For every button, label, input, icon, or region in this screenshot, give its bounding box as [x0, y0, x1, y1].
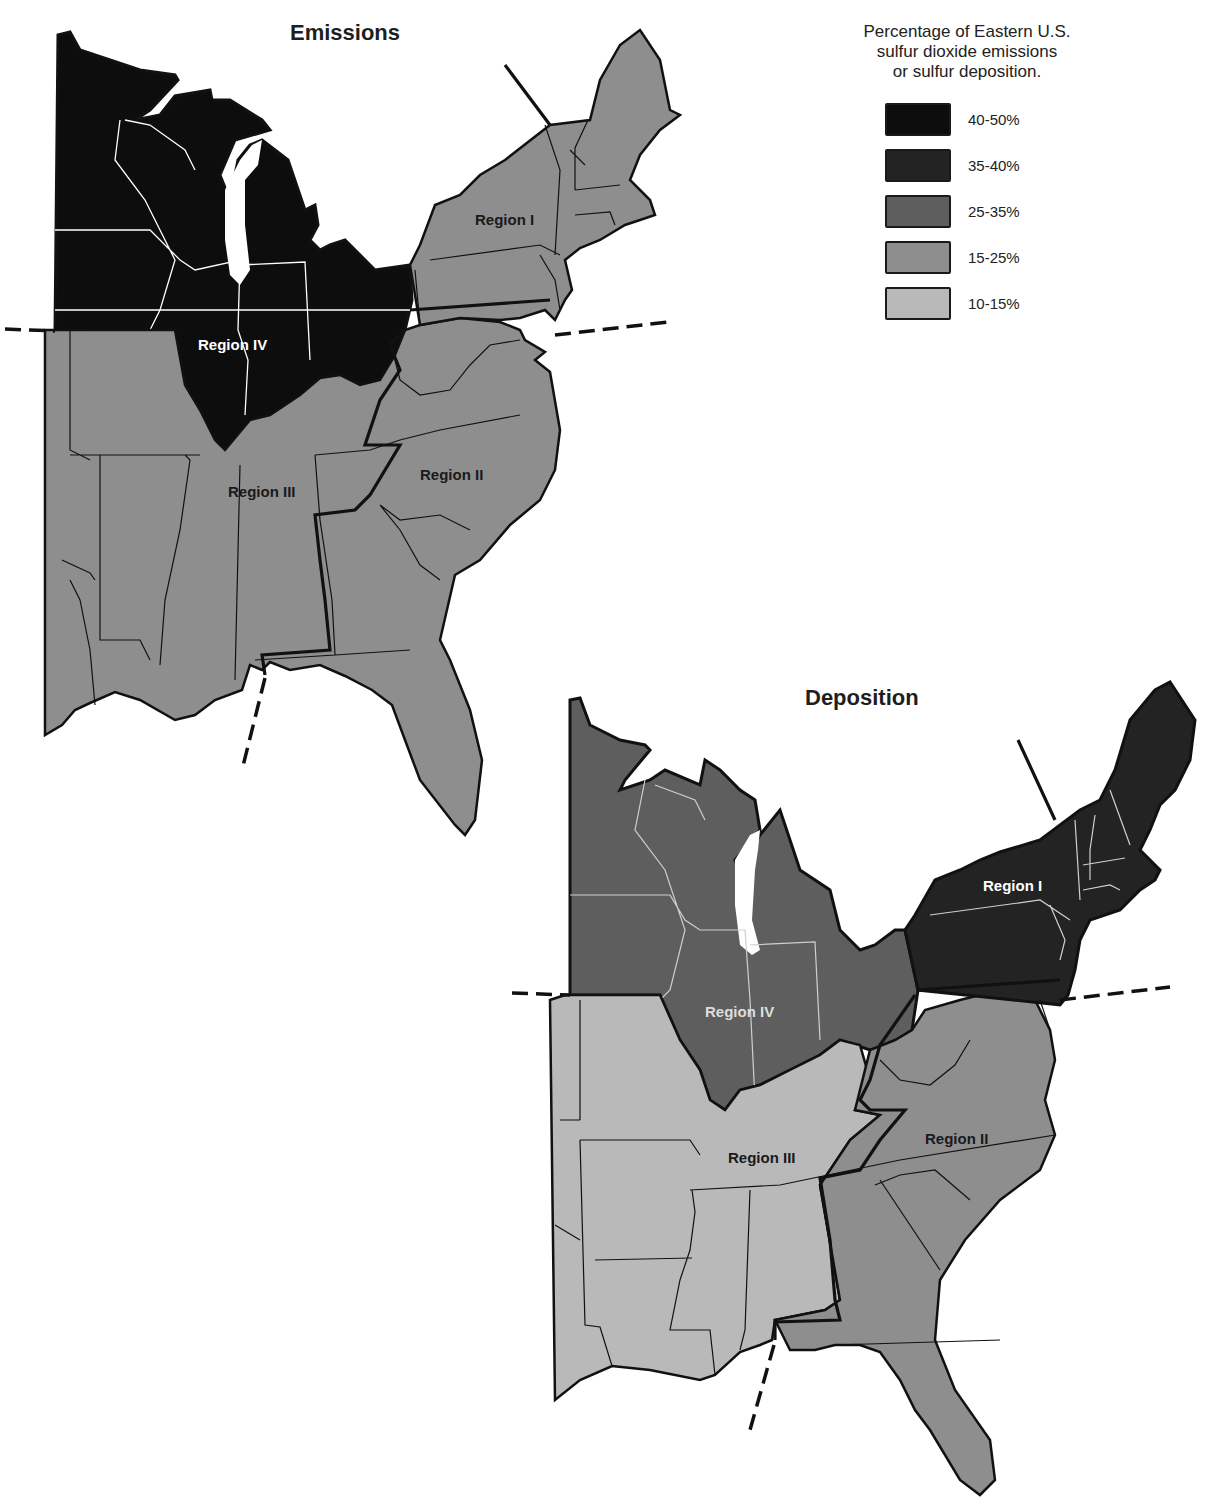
legend-item: 25-35%: [885, 188, 1112, 234]
legend-item: 35-40%: [885, 142, 1112, 188]
legend-swatch: [885, 149, 951, 182]
legend-title: Percentage of Eastern U.S. sulfur dioxid…: [822, 22, 1112, 82]
legend-swatch: [885, 195, 951, 228]
deposition-dashed-divider-gulf: [750, 1345, 774, 1430]
legend-title-line: Percentage of Eastern U.S.: [822, 22, 1112, 42]
legend-swatch: [885, 287, 951, 320]
legend-label: 25-35%: [968, 203, 1020, 220]
legend-item: 40-50%: [885, 96, 1112, 142]
legend-label: 10-15%: [968, 295, 1020, 312]
deposition-label-region-i: Region I: [983, 877, 1042, 894]
deposition-dashed-divider-west: [512, 993, 570, 995]
legend-items: 40-50% 35-40% 25-35% 15-25% 10-15%: [885, 96, 1112, 326]
deposition-label-region-ii: Region II: [925, 1130, 988, 1147]
legend-label: 15-25%: [968, 249, 1020, 266]
legend-swatch: [885, 103, 951, 136]
legend-item: 15-25%: [885, 234, 1112, 280]
deposition-dashed-divider-east: [1060, 987, 1170, 1000]
deposition-label-region-iv: Region IV: [705, 1003, 774, 1020]
deposition-region-i: [905, 682, 1195, 1005]
legend-label: 40-50%: [968, 111, 1020, 128]
legend-title-line: sulfur dioxide emissions: [822, 42, 1112, 62]
legend-item: 10-15%: [885, 280, 1112, 326]
legend-swatch: [885, 241, 951, 274]
legend-label: 35-40%: [968, 157, 1020, 174]
legend-title-line: or sulfur deposition.: [822, 62, 1112, 82]
legend: Percentage of Eastern U.S. sulfur dioxid…: [822, 22, 1112, 326]
deposition-label-region-iii: Region III: [728, 1149, 796, 1166]
